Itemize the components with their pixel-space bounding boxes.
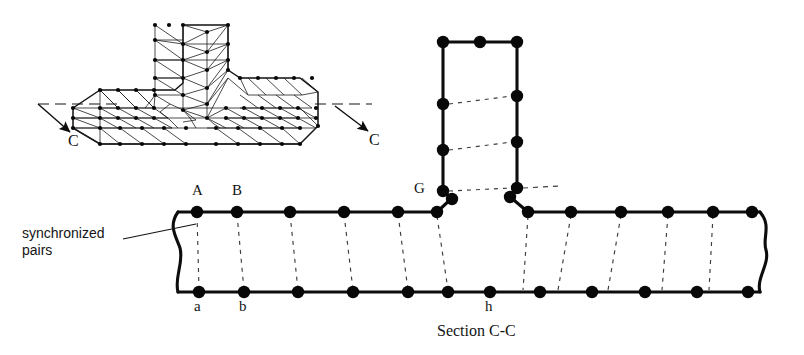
node-label-A: A bbox=[192, 182, 203, 199]
node-label-b: b bbox=[239, 298, 247, 315]
pair-line bbox=[709, 215, 713, 290]
pair-line bbox=[608, 215, 621, 290]
pair-line bbox=[523, 216, 528, 290]
callout-line-2: pairs bbox=[22, 242, 127, 259]
section-node bbox=[191, 206, 203, 218]
section-node bbox=[615, 206, 627, 218]
section-node bbox=[511, 90, 523, 102]
callout-leader-line bbox=[123, 224, 196, 239]
mesh-triangles-left bbox=[73, 90, 186, 144]
section-node bbox=[511, 136, 523, 148]
mesh-triangles-web bbox=[155, 25, 228, 128]
section-node bbox=[504, 191, 516, 203]
pair-line bbox=[398, 214, 408, 290]
section-node bbox=[231, 206, 243, 218]
section-node bbox=[639, 286, 651, 298]
section-node bbox=[437, 185, 449, 197]
section-node bbox=[437, 98, 449, 110]
section-mark-right bbox=[335, 106, 368, 131]
section-mark-left bbox=[38, 104, 70, 132]
section-node bbox=[742, 286, 754, 298]
section-node bbox=[292, 286, 304, 298]
pair-line bbox=[290, 214, 298, 290]
callout-line-1: synchronized bbox=[22, 225, 127, 242]
pair-line bbox=[344, 214, 353, 290]
figure-root: C C synchronized pairs A B G a b h Secti… bbox=[0, 0, 804, 355]
section-node bbox=[691, 286, 703, 298]
pair-line bbox=[449, 142, 512, 150]
section-mark-right-label: C bbox=[369, 131, 380, 149]
section-outline bbox=[178, 42, 760, 292]
section-node bbox=[474, 36, 486, 48]
node-label-h: h bbox=[485, 298, 493, 315]
section-node bbox=[484, 286, 496, 298]
web-extension-dashes bbox=[523, 186, 560, 188]
pair-line bbox=[197, 214, 199, 290]
section-node-group bbox=[191, 36, 758, 298]
break-line-left bbox=[173, 212, 181, 292]
section-node bbox=[431, 206, 443, 218]
section-node bbox=[707, 206, 719, 218]
pair-line bbox=[237, 214, 244, 290]
section-node bbox=[565, 206, 577, 218]
section-node bbox=[347, 286, 359, 298]
pair-line bbox=[437, 216, 448, 290]
section-node bbox=[746, 206, 758, 218]
node-label-B: B bbox=[232, 182, 242, 199]
section-node bbox=[586, 286, 598, 298]
section-mark-left-label: C bbox=[68, 132, 79, 150]
section-node bbox=[662, 206, 674, 218]
pair-line bbox=[662, 215, 668, 290]
section-node bbox=[402, 286, 414, 298]
pair-line bbox=[449, 96, 512, 104]
section-node bbox=[442, 286, 454, 298]
break-line-right bbox=[759, 212, 766, 292]
node-label-G: G bbox=[414, 180, 425, 197]
figure-caption: Section C-C bbox=[437, 322, 516, 340]
pair-line bbox=[558, 215, 571, 290]
section-cc-view bbox=[123, 36, 767, 298]
section-node bbox=[437, 36, 449, 48]
section-node bbox=[522, 206, 534, 218]
section-node bbox=[238, 286, 250, 298]
diagram-canvas bbox=[0, 0, 804, 355]
mesh-triangles-right bbox=[216, 78, 318, 144]
section-node bbox=[193, 286, 205, 298]
mesh-3d-view bbox=[38, 23, 372, 146]
section-node bbox=[338, 206, 350, 218]
section-node bbox=[534, 286, 546, 298]
synchronized-pairs-callout: synchronized pairs bbox=[22, 225, 127, 258]
section-node bbox=[437, 144, 449, 156]
section-node bbox=[392, 206, 404, 218]
node-label-a: a bbox=[194, 298, 201, 315]
section-node bbox=[511, 36, 523, 48]
pair-line bbox=[449, 188, 512, 191]
section-node bbox=[284, 206, 296, 218]
